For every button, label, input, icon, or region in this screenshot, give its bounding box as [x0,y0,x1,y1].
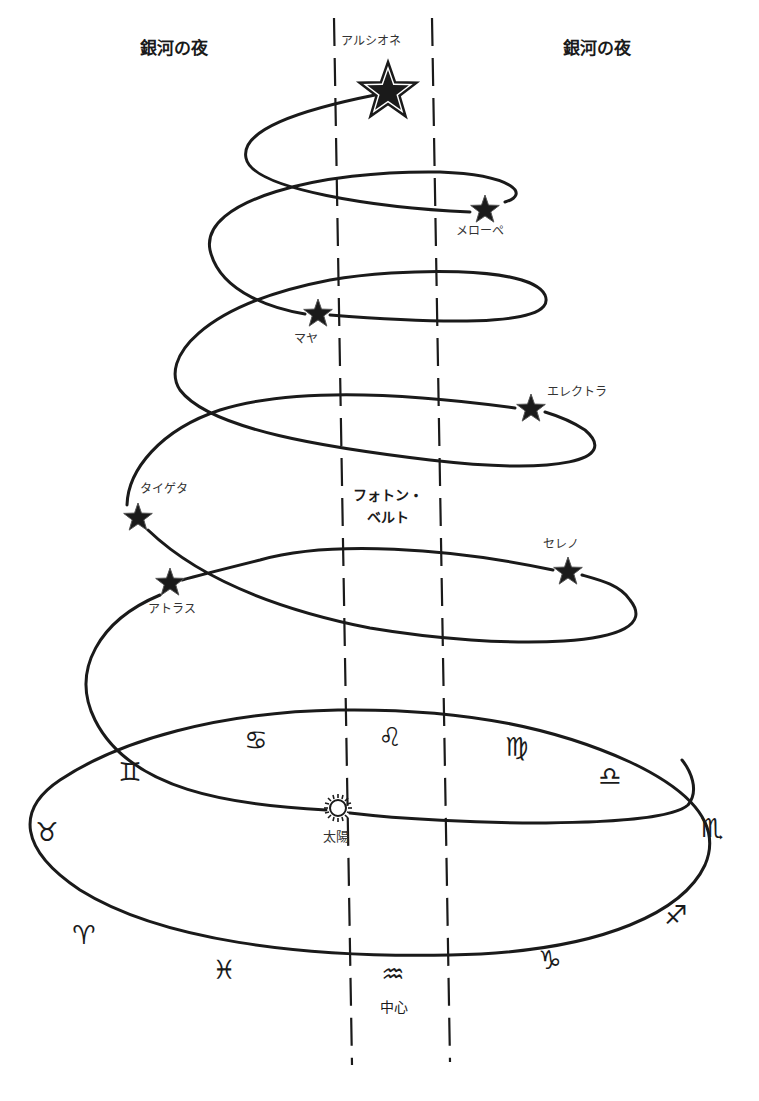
taurus-icon: ♉ [35,819,58,845]
pisces-icon: ♓ [212,957,235,983]
sagittarius-icon: ♐ [664,902,687,928]
zodiac-ellipse [30,710,710,955]
electra-star-icon [517,394,546,421]
atlas-star-icon [156,568,185,595]
libra-icon: ♎ [598,763,621,789]
celaeno-star-icon [554,557,583,584]
alcyone-star-icon [360,62,417,116]
taygeta-star-icon [124,503,153,530]
photon-belt-label-line2: ベルト [338,506,438,528]
center-label: 中心 [380,1000,408,1014]
aries-icon: ♈ [72,922,95,948]
star-label-maia: マヤ [294,333,318,345]
star-label-electra: エレクトラ [547,386,607,398]
gemini-icon: ♊ [118,759,141,785]
star-label-alcyone: アルシオネ [341,35,401,47]
sun-label: 太陽 [323,830,349,843]
merope-star-icon [471,195,500,222]
maia-star-icon [304,299,333,326]
photon-belt-label: フォトン・ ベルト [338,484,438,528]
virgo-icon: ♍ [505,734,528,760]
capricorn-icon: ♑ [538,947,561,973]
star-label-merope: メローペ [456,225,504,237]
star-label-taygeta: タイゲタ [140,483,188,495]
star-label-celaeno: セレノ [543,538,579,550]
leo-icon: ♌ [378,724,401,750]
scorpio-icon: ♏ [700,815,723,841]
galaxy-night-label-left: 銀河の夜 [140,40,208,57]
aquarius-icon: ♒ [381,961,404,987]
galaxy-night-label-right: 銀河の夜 [563,40,631,57]
star-label-atlas: アトラス [148,603,196,615]
solar-spiral-path [86,95,693,823]
cancer-icon: ♋ [244,727,267,753]
sun-icon [324,794,352,822]
photon-belt-label-line1: フォトン・ [338,484,438,506]
photon-belt-diagram [0,0,759,1101]
